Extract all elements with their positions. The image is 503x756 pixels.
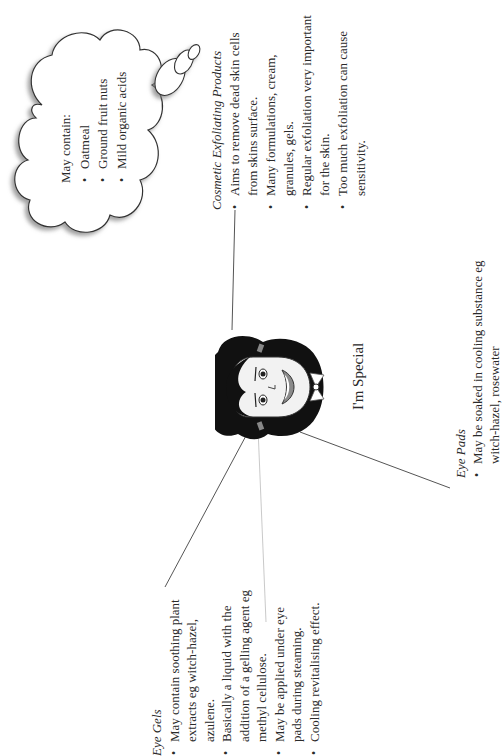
face-illustration	[215, 325, 325, 450]
cloud-item: Ground fruit nuts	[94, 72, 113, 183]
eye-gels-item: Cooling revitalising effect.	[306, 590, 324, 756]
eye-gels-item: May be applied under eye pads during ste…	[271, 590, 306, 756]
cloud-list: Oatmeal Ground fruit nuts Mild organic a…	[76, 72, 132, 183]
eye-pads-section: Eye Pads May be soaked in cooling substa…	[452, 260, 503, 478]
exfoliating-item: Regular exfoliation very important for t…	[298, 15, 334, 210]
exfoliating-list: Aims to remove dead skin cells from skin…	[226, 15, 370, 210]
eye-pads-title: Eye Pads	[452, 260, 469, 478]
cloud-text: May contain: Oatmeal Ground fruit nuts M…	[57, 72, 131, 183]
eye-pads-item: May be soaked in cooling substance eg wi…	[469, 260, 503, 478]
eye-gels-item: May contain soothing plant extracts eg w…	[166, 590, 219, 756]
eye-gels-list: May contain soothing plant extracts eg w…	[166, 590, 324, 756]
center-label: I'm Special	[350, 343, 367, 410]
eye-gels-title: Eye Gels	[148, 590, 166, 756]
exfoliating-title: Cosmetic Exfoliating Products	[208, 15, 226, 210]
eye-pads-list: May be soaked in cooling substance eg wi…	[469, 260, 503, 478]
cloud-item: Mild organic acids	[113, 72, 132, 183]
exfoliating-item: Aims to remove dead skin cells from skin…	[226, 15, 262, 210]
cloud-intro: May contain:	[57, 72, 76, 183]
eye-gels-item: Basically a liquid with the addition of …	[218, 590, 271, 756]
eye-gels-section: Eye Gels May contain soothing plant extr…	[148, 590, 323, 756]
exfoliating-item: Too much exfoliation can cause sensitivi…	[334, 15, 370, 210]
exfoliating-section: Cosmetic Exfoliating Products Aims to re…	[208, 15, 370, 210]
exfoliating-item: Many formulations, cream, granules, gels…	[262, 15, 298, 210]
cloud-item: Oatmeal	[76, 72, 95, 183]
